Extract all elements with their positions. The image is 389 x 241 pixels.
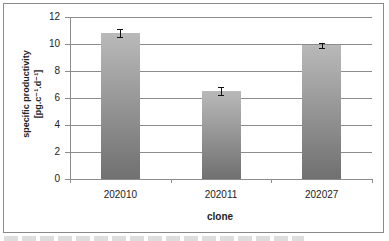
y-axis-title-line2: [pg.c⁻¹.d⁻¹] — [32, 34, 44, 154]
error-bar — [120, 29, 121, 37]
error-bar — [221, 87, 222, 95]
x-axis-title: clone — [190, 211, 250, 222]
x-tick — [171, 179, 172, 183]
error-cap-bottom — [319, 48, 325, 49]
x-tick — [372, 179, 373, 183]
y-tick-label: 12 — [40, 11, 60, 22]
bar-202010 — [101, 33, 140, 179]
x-tick-label: 202010 — [90, 189, 150, 200]
x-tick-label: 202027 — [292, 189, 352, 200]
y-tick-label: 0 — [40, 173, 60, 184]
y-axis-title: specific productivity [pg.c⁻¹.d⁻¹] — [20, 34, 44, 154]
y-axis — [70, 17, 71, 180]
x-tick — [70, 179, 71, 183]
error-cap-bottom — [218, 95, 224, 96]
bar-202011 — [202, 91, 241, 179]
y-axis-title-line1: specific productivity — [20, 34, 32, 154]
error-cap-top — [218, 87, 224, 88]
error-cap-top — [319, 43, 325, 44]
x-tick — [271, 179, 272, 183]
bar-202027 — [302, 45, 341, 179]
gridline — [70, 17, 372, 18]
error-cap-top — [117, 29, 123, 30]
x-tick-label: 202011 — [191, 189, 251, 200]
error-cap-bottom — [117, 37, 123, 38]
figure-caption-cropped — [4, 236, 304, 241]
gridline — [70, 179, 372, 180]
